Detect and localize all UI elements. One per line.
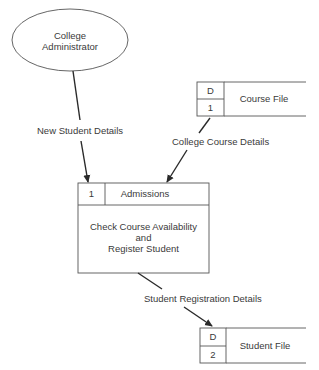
student-file-store-number: 2: [200, 350, 226, 360]
flow-college-course-details-arrow: [167, 118, 210, 182]
process-title: Admissions: [105, 189, 185, 199]
external-entity-label-line2: Administrator: [20, 42, 120, 52]
diagram-canvas: [0, 0, 319, 370]
process-body-line2: and: [78, 233, 209, 243]
flow-label-new-student-details: New Student Details: [37, 126, 123, 136]
course-file-store-name: Course File: [224, 94, 304, 104]
external-entity-label-line1: College: [20, 31, 120, 41]
flow-label-student-registration-details: Student Registration Details: [144, 294, 262, 304]
process-number: 1: [78, 189, 105, 199]
course-file-store-type: D: [197, 86, 224, 96]
process-body-line3: Register Student: [78, 244, 209, 254]
course-file-store-number: 1: [197, 103, 224, 113]
student-file-store-name: Student File: [226, 341, 304, 351]
student-file-store-type: D: [200, 332, 226, 342]
process-body-line1: Check Course Availability: [78, 222, 209, 232]
flow-label-college-course-details: College Course Details: [172, 137, 269, 147]
